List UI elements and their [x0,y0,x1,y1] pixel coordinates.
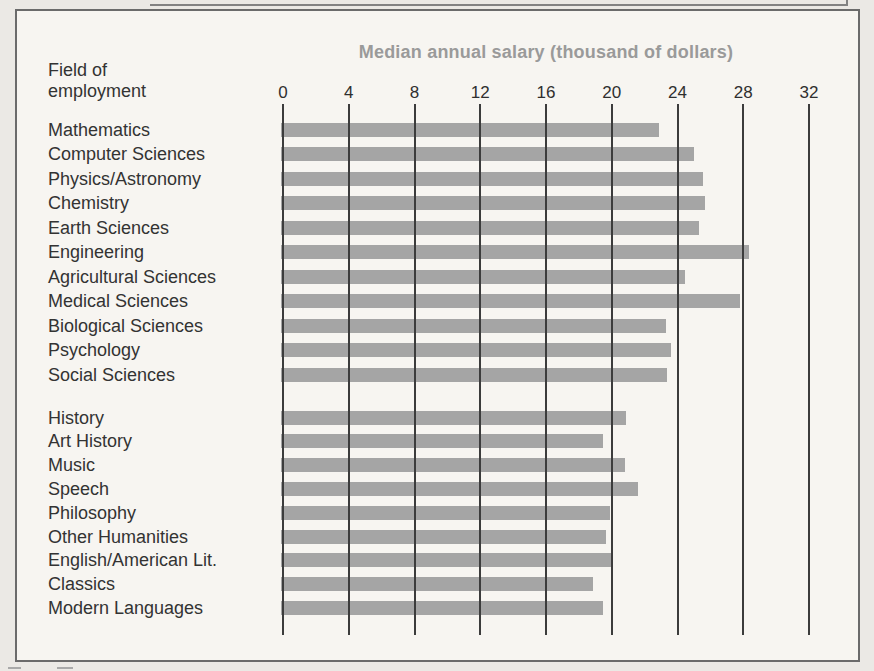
bar [281,601,603,615]
category-label: Medical Sciences [48,291,188,311]
gridline [479,104,481,635]
category-label: Biological Sciences [48,316,203,336]
chart-frame: Median annual salary (thousand of dollar… [15,9,860,662]
axis-tick-label: 8 [395,83,435,103]
gridline [545,104,547,635]
axis-tick-label: 24 [658,83,698,103]
bar [281,530,606,544]
category-label: Modern Languages [48,598,203,618]
category-label: Computer Sciences [48,144,205,164]
category-label: History [48,408,104,428]
category-label: Other Humanities [48,527,188,547]
category-axis-label: Field of employment [48,60,164,102]
category-label: Speech [48,479,109,499]
previous-figure-border-fragment [150,0,848,6]
bar [281,368,667,382]
scanned-page: Median annual salary (thousand of dollar… [0,0,874,671]
chart-title: Median annual salary (thousand of dollar… [283,42,809,63]
category-label: Agricultural Sciences [48,267,216,287]
bar [281,319,666,333]
axis-tick-label: 16 [526,83,566,103]
category-label: Psychology [48,340,140,360]
category-label: Art History [48,431,132,451]
gridline [414,104,416,635]
bar [281,123,659,137]
category-label: Music [48,455,95,475]
category-label: Classics [48,574,115,594]
gridline [677,104,679,635]
bar [281,294,740,308]
category-label: Chemistry [48,193,129,213]
category-label: Philosophy [48,503,136,523]
bar [281,458,625,472]
bar [281,411,626,425]
bar [281,221,699,235]
category-label: Engineering [48,242,144,262]
gridline [611,104,613,635]
bar [281,482,638,496]
bar [281,434,603,448]
bar [281,172,703,186]
bar [281,553,611,567]
category-label: Social Sciences [48,365,175,385]
bar [281,147,694,161]
gridline [348,104,350,635]
bar [281,270,685,284]
axis-tick-label: 28 [723,83,763,103]
gridline [742,104,744,635]
cropped-caption-fragment [8,667,21,669]
bar [281,196,705,210]
axis-tick-label: 0 [263,83,303,103]
bar [281,506,610,520]
category-label: Mathematics [48,120,150,140]
category-label: Earth Sciences [48,218,169,238]
axis-tick-label: 32 [789,83,829,103]
axis-tick-label: 4 [329,83,369,103]
cropped-caption-fragment [57,667,73,669]
gridline [808,104,810,635]
axis-tick-label: 20 [592,83,632,103]
category-label: Physics/Astronomy [48,169,201,189]
gridline [282,104,284,635]
category-label: English/American Lit. [48,550,217,570]
bar [281,245,749,259]
axis-tick-label: 12 [460,83,500,103]
